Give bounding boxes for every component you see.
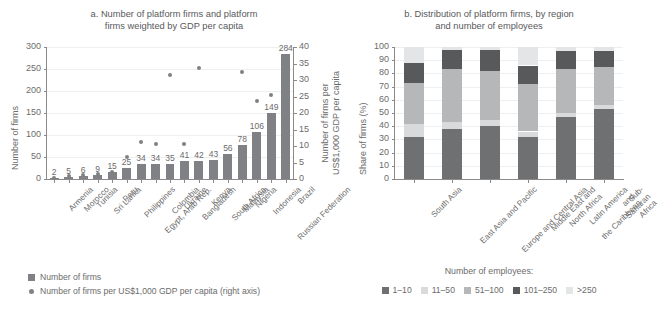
x-tick — [271, 180, 272, 183]
stack-segment — [442, 129, 462, 179]
x-tick — [199, 180, 200, 183]
x-tick — [414, 180, 415, 183]
square-swatch-icon — [566, 287, 573, 294]
stack-segment — [404, 47, 424, 63]
x-tick — [604, 180, 605, 183]
bar — [223, 154, 232, 179]
y-axis-line — [46, 47, 47, 180]
stack-segment — [480, 47, 500, 50]
y2-tick-label: 35 — [299, 58, 309, 68]
gridline — [395, 60, 623, 61]
x-tick — [184, 180, 185, 183]
stack-segment — [594, 105, 614, 109]
square-swatch-icon — [382, 287, 389, 294]
stack-segment — [556, 47, 576, 51]
gridline — [395, 47, 623, 48]
bar-value-label: 284 — [279, 43, 293, 53]
bar — [252, 132, 261, 179]
bar-value-label: 41 — [177, 150, 191, 160]
stack-segment — [518, 84, 538, 132]
circle-dot-icon — [29, 289, 34, 294]
gridline — [47, 69, 293, 70]
chart-b-legend: 1–1011–5051–100101–250>250 — [340, 285, 638, 295]
y-tick-label: 0 — [12, 173, 41, 183]
legend-label: >250 — [577, 285, 596, 295]
scatter-dot — [284, 139, 288, 143]
y2-tick — [294, 130, 297, 131]
legend-item: >250 — [566, 285, 596, 295]
bar — [238, 145, 247, 179]
stack-segment — [442, 47, 462, 50]
gridline — [395, 139, 623, 140]
y2-tick — [294, 146, 297, 147]
stacked-bar — [556, 47, 576, 179]
bar — [137, 164, 146, 179]
stack-segment — [518, 132, 538, 137]
square-swatch-icon — [513, 287, 520, 294]
chart-a-legend: Number of firms Number of firms per US$1… — [28, 272, 260, 300]
y-tick-label: 80 — [360, 67, 389, 77]
scatter-dot — [168, 73, 172, 77]
x-tick — [69, 180, 70, 183]
x-tick — [156, 180, 157, 183]
x-tick — [490, 180, 491, 183]
y2-tick — [294, 97, 297, 98]
y2-tick-label: 0 — [299, 173, 304, 183]
stack-segment — [556, 113, 576, 117]
bar — [151, 164, 160, 179]
bar-value-label: 149 — [264, 102, 278, 112]
chart-a-y2-axis-title: Number of firms per US$1,000 GDP per cap… — [320, 71, 341, 175]
bar-value-label: 56 — [221, 143, 235, 153]
legend-item: 1–10 — [382, 285, 412, 295]
gridline — [395, 87, 623, 88]
chart-b-plot-area: 0102030405060708090100South AsiaEast Asi… — [395, 47, 623, 179]
bar-value-label: 78 — [235, 134, 249, 144]
y2-tick-label: 10 — [299, 140, 309, 150]
stacked-bar — [594, 47, 614, 179]
y2-tick-label: 40 — [299, 41, 309, 51]
y2-tick — [294, 47, 297, 48]
y-tick-label: 100 — [360, 41, 389, 51]
x-tick — [566, 180, 567, 183]
stack-segment — [480, 120, 500, 127]
stacked-bar — [518, 47, 538, 179]
stack-segment — [556, 51, 576, 69]
gridline — [47, 113, 293, 114]
scatter-dot — [182, 142, 186, 146]
bar — [194, 161, 203, 179]
bar — [267, 113, 276, 179]
x-tick — [242, 180, 243, 183]
panel-a: a. Number of platform firms and platform… — [0, 0, 340, 312]
stack-segment — [594, 51, 614, 67]
x-tick — [228, 180, 229, 183]
stack-segment — [518, 47, 538, 65]
bar — [180, 161, 189, 179]
bar — [122, 168, 131, 179]
stack-segment — [404, 124, 424, 137]
legend-item-number-of-firms: Number of firms — [28, 272, 260, 282]
stack-segment — [404, 83, 424, 124]
stack-segment — [442, 69, 462, 122]
y2-tick-label: 25 — [299, 91, 309, 101]
y2-tick — [294, 163, 297, 164]
legend-label: 11–50 — [432, 285, 455, 295]
legend-item: 101–250 — [513, 285, 557, 295]
x-tick — [98, 180, 99, 183]
y2-tick — [294, 179, 297, 180]
legend-item: 11–50 — [421, 285, 455, 295]
bar-value-label: 34 — [134, 153, 148, 163]
y-tick-label: 70 — [360, 81, 389, 91]
y2-tick-label: 5 — [299, 157, 304, 167]
stack-segment — [594, 67, 614, 105]
x-tick — [257, 180, 258, 183]
scatter-dot — [154, 142, 158, 146]
stack-segment — [556, 69, 576, 113]
scatter-dot — [96, 172, 100, 176]
x-tick — [54, 180, 55, 183]
chart-a-y-axis-title: Number of firms — [10, 106, 20, 170]
chart-a-plot-area: 05010015020025030005101520253035402Armen… — [47, 47, 293, 179]
legend-label: 101–250 — [524, 285, 557, 295]
y2-tick — [294, 64, 297, 65]
scatter-dot — [255, 99, 259, 103]
